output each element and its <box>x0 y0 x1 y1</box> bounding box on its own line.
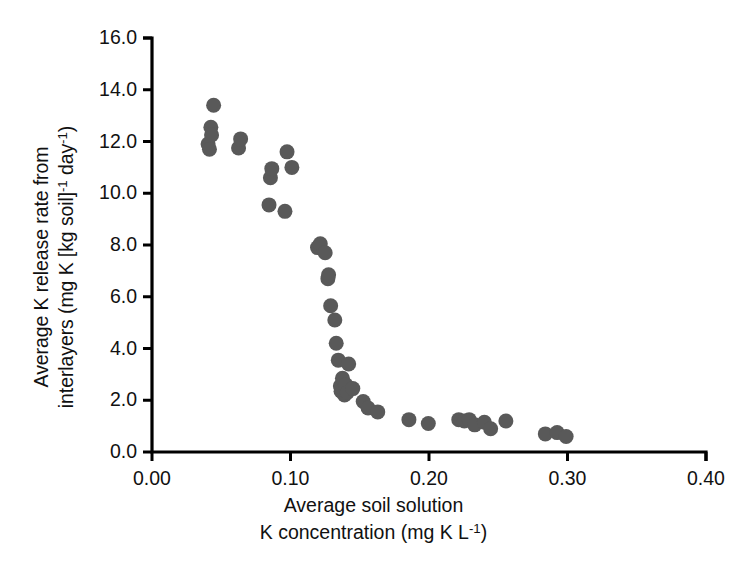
axis-frame <box>143 38 706 461</box>
data-point <box>262 197 277 212</box>
data-point <box>204 128 219 143</box>
data-point <box>202 142 217 157</box>
data-points <box>201 98 574 444</box>
tick-marks <box>143 38 706 461</box>
data-point <box>559 429 574 444</box>
data-point <box>401 412 416 427</box>
data-point <box>345 381 360 396</box>
data-point <box>498 413 513 428</box>
data-point <box>323 298 338 313</box>
data-point <box>370 404 385 419</box>
chart-figure: Average K release rate from interlayers … <box>0 0 747 573</box>
data-point <box>341 357 356 372</box>
data-point <box>318 245 333 260</box>
data-point <box>280 144 295 159</box>
data-point <box>483 421 498 436</box>
data-point <box>329 336 344 351</box>
plot-area <box>0 0 747 573</box>
data-point <box>264 161 279 176</box>
data-point <box>233 131 248 146</box>
data-point <box>284 160 299 175</box>
data-point <box>206 98 221 113</box>
data-point <box>421 416 436 431</box>
axis-lines <box>143 38 706 461</box>
data-point <box>321 267 336 282</box>
data-point <box>327 313 342 328</box>
data-point <box>277 204 292 219</box>
